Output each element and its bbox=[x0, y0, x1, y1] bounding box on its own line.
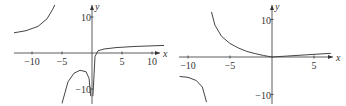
x-axis-label: x bbox=[162, 48, 168, 59]
x-axis-arrow-icon bbox=[155, 51, 160, 55]
x-tick-label: −10 bbox=[24, 56, 40, 67]
y-tick-label: −10 bbox=[255, 90, 271, 101]
x-axis-arrow-icon bbox=[328, 55, 333, 59]
x-tick-label: −5 bbox=[225, 60, 236, 71]
x-tick-label: −5 bbox=[57, 56, 68, 67]
curve-branch-left bbox=[180, 77, 207, 103]
x-tick-label: 5 bbox=[312, 60, 317, 71]
y-axis-arrow-icon bbox=[90, 5, 94, 10]
y-tick-label: −10 bbox=[75, 84, 91, 95]
x-tick-label: 10 bbox=[147, 56, 157, 67]
y-tick-label: 10 bbox=[261, 15, 271, 26]
y-axis-arrow-icon bbox=[270, 5, 274, 10]
y-axis-label: y bbox=[94, 1, 100, 12]
curve-branch-left bbox=[14, 5, 55, 33]
curve-line-right bbox=[272, 53, 331, 57]
y-tick-label: 10 bbox=[81, 12, 91, 23]
x-tick-label: −10 bbox=[180, 60, 196, 71]
x-tick-label: 5 bbox=[120, 56, 125, 67]
chart-right: xy−10−5510−10 bbox=[173, 0, 346, 106]
y-axis-label: y bbox=[274, 1, 280, 12]
chart-left: xy−10−551010−10 bbox=[0, 0, 173, 106]
x-axis-label: x bbox=[335, 52, 341, 63]
